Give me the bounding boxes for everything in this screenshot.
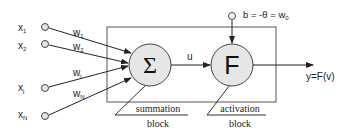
bias-node [229, 13, 236, 20]
summation-caption-line2: block [147, 118, 169, 129]
weight-label-2: w2 [72, 41, 84, 53]
bias-label: b = -θ = w0 [243, 9, 289, 21]
summation-caption-line1: summation [136, 103, 180, 114]
input-node-n [42, 113, 49, 120]
activation-symbol: F [224, 51, 239, 79]
input-label-xj: xj [18, 82, 24, 94]
u-label: u [187, 51, 193, 62]
input-node-1 [42, 24, 49, 31]
input-label-xn: xN [18, 109, 27, 121]
weight-label-n: wN [72, 88, 85, 100]
weight-label-1: w1 [72, 27, 84, 39]
input-node-j [42, 85, 49, 92]
input-label-x1: x1 [18, 22, 27, 34]
activation-caption-line2: block [229, 118, 251, 129]
weight-arrow-j [49, 66, 128, 87]
input-label-x2: x2 [18, 40, 27, 52]
weight-arrow-1 [49, 28, 131, 53]
input-node-2 [42, 41, 49, 48]
weight-arrow-2 [49, 45, 128, 63]
weight-label-j: wj [72, 67, 82, 79]
activation-caption-line1: activation [220, 103, 259, 114]
output-label: y=F(v) [306, 71, 335, 82]
neuron-diagram: x1 x2 xj xN w1 w2 wj wN Σ u F b = -θ = w… [0, 0, 351, 133]
sigma-symbol: Σ [143, 52, 157, 78]
